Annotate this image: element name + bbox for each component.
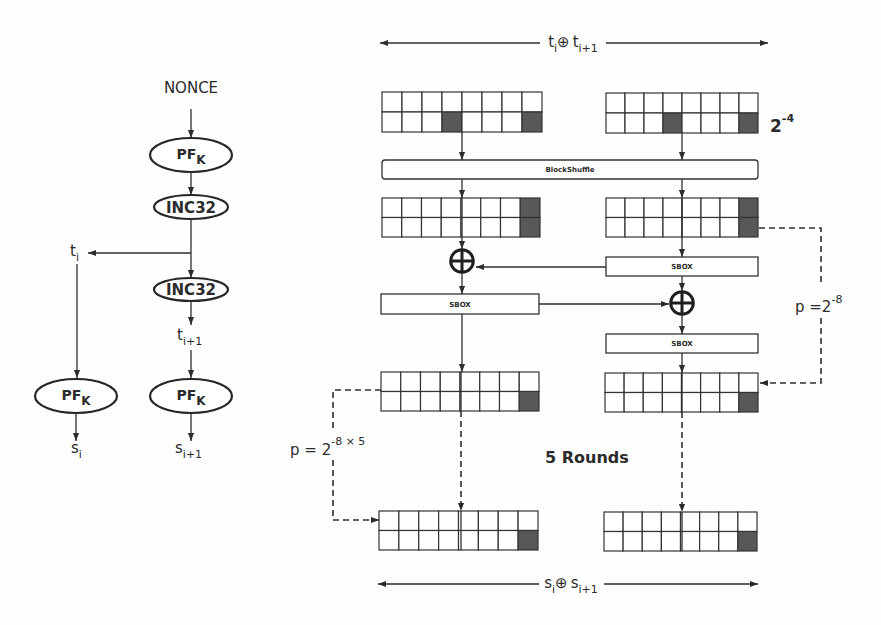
output-xor-span: si⊕si+1 bbox=[378, 574, 758, 596]
output-next-sub: i+1 bbox=[183, 448, 202, 461]
output-next-var: s bbox=[571, 574, 579, 592]
cell bbox=[701, 218, 720, 238]
xor-operator: ⊕ bbox=[557, 33, 570, 51]
active-cell bbox=[739, 393, 758, 413]
state-grid-shuffled-left bbox=[382, 198, 540, 237]
cell bbox=[501, 198, 521, 218]
probability-base: 2 bbox=[770, 116, 782, 136]
xor-icon bbox=[671, 292, 694, 315]
dashed-bracket-round-upper bbox=[759, 228, 821, 286]
tweak-xor-label: ti⊕ti+1 bbox=[548, 33, 598, 55]
cell bbox=[701, 113, 720, 133]
inc32-label: INC32 bbox=[166, 199, 216, 217]
prf-name: PF bbox=[176, 146, 196, 162]
cell bbox=[643, 373, 662, 393]
cell bbox=[481, 218, 501, 238]
cell bbox=[644, 198, 663, 218]
cell bbox=[439, 511, 459, 531]
cell bbox=[606, 113, 625, 133]
cell bbox=[623, 532, 642, 552]
cell bbox=[498, 511, 518, 531]
prf-key-subscript: K bbox=[196, 394, 206, 408]
cell bbox=[625, 113, 644, 133]
output-xor-label: si⊕si+1 bbox=[544, 574, 598, 596]
active-cell bbox=[520, 198, 540, 218]
cell bbox=[522, 92, 542, 112]
cell bbox=[482, 112, 502, 132]
cell bbox=[720, 198, 739, 218]
cell bbox=[379, 511, 399, 531]
inc32-node-first: INC32 bbox=[154, 195, 228, 219]
tweak-next-sub: i+1 bbox=[579, 42, 598, 55]
cell bbox=[700, 512, 719, 532]
tweak-i-sub: i bbox=[76, 251, 79, 264]
prf-node-left: PFK bbox=[35, 379, 117, 413]
prf-node-right: PFK bbox=[150, 379, 232, 413]
cell bbox=[419, 511, 439, 531]
dashed-bracket-round-lower bbox=[760, 318, 821, 383]
cell bbox=[625, 93, 644, 113]
keystream-generator: NONCE PFK INC32 ti INC32 ti+1 PFK PF bbox=[35, 79, 232, 461]
xor-icon bbox=[451, 250, 474, 273]
cell bbox=[625, 218, 644, 238]
cell bbox=[701, 393, 720, 413]
cell bbox=[661, 532, 680, 552]
cell bbox=[422, 112, 442, 132]
state-grid-output-right bbox=[604, 512, 757, 551]
probability-exponent: -4 bbox=[782, 112, 795, 125]
cell bbox=[478, 531, 498, 551]
probability-prefix: p = bbox=[795, 298, 822, 316]
cell bbox=[642, 512, 661, 532]
input-probability: 2-4 bbox=[770, 112, 794, 136]
total-probability: p = 2-8 × 5 bbox=[290, 435, 365, 459]
cell bbox=[518, 511, 538, 531]
cell bbox=[480, 392, 500, 412]
cell bbox=[720, 93, 739, 113]
prf-key-subscript: K bbox=[81, 394, 91, 408]
cell bbox=[498, 531, 518, 551]
cell bbox=[421, 392, 441, 412]
cell bbox=[720, 113, 739, 133]
block-shuffle-label: BlockShuffle bbox=[546, 166, 595, 174]
cell bbox=[662, 373, 681, 393]
cell bbox=[439, 531, 459, 551]
active-cell bbox=[518, 531, 538, 551]
sbox-label: SBOX bbox=[671, 340, 693, 348]
cell bbox=[382, 92, 402, 112]
dashed-bracket-total-upper bbox=[333, 390, 381, 430]
state-grid-input-left bbox=[382, 92, 542, 132]
output-next-var: s bbox=[175, 439, 183, 457]
tweak-xor-span: ti⊕ti+1 bbox=[380, 33, 768, 55]
sbox-left: SBOX bbox=[381, 294, 539, 314]
tweak-next-label: ti+1 bbox=[177, 326, 202, 348]
dashed-bracket-total-lower bbox=[333, 460, 379, 520]
cell bbox=[682, 373, 701, 393]
cell bbox=[460, 372, 480, 392]
cell bbox=[663, 218, 682, 238]
cell bbox=[440, 392, 460, 412]
differential-trail-diagram: ti⊕ti+1 NONCE PFK INC32 ti INC32 ti+1 PF… bbox=[0, 0, 881, 625]
active-cell bbox=[519, 392, 539, 412]
state-grid-round-left bbox=[381, 372, 539, 411]
cell bbox=[399, 531, 419, 551]
tweak-next-sub: i+1 bbox=[183, 335, 202, 348]
cell bbox=[606, 198, 625, 218]
cell bbox=[502, 92, 522, 112]
cell bbox=[624, 393, 643, 413]
active-cell bbox=[520, 218, 540, 238]
cell bbox=[662, 393, 681, 413]
rounds-label: 5 Rounds bbox=[545, 448, 629, 467]
cell bbox=[682, 218, 701, 238]
cell bbox=[625, 198, 644, 218]
active-cell bbox=[442, 112, 462, 132]
cell bbox=[461, 218, 481, 238]
round-probability: p =2-8 bbox=[795, 293, 842, 316]
cell bbox=[701, 93, 720, 113]
cell bbox=[738, 512, 757, 532]
cell bbox=[402, 218, 422, 238]
cell bbox=[461, 198, 481, 218]
active-cell bbox=[738, 532, 757, 552]
cell bbox=[701, 373, 720, 393]
cell bbox=[605, 373, 624, 393]
cell bbox=[644, 113, 663, 133]
